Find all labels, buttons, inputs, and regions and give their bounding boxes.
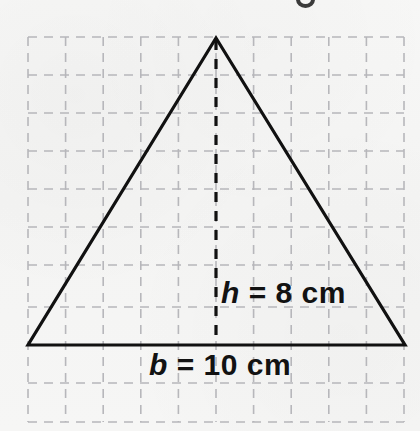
triangle-figure <box>0 0 420 431</box>
diagram-canvas: h = 8 cm b = 10 cm <box>0 0 420 431</box>
